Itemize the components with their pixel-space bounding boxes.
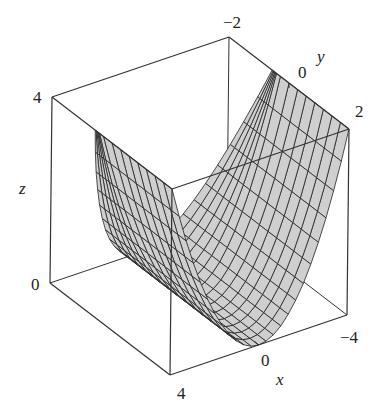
surface-mesh [95, 70, 349, 346]
z-tick-4: 4 [33, 89, 42, 106]
x-axis-label: x [276, 371, 284, 388]
y-axis-label: y [317, 48, 325, 65]
y-tick-0: 0 [298, 64, 307, 81]
x-tick-neg4: −4 [340, 329, 358, 346]
y-tick-neg2: −2 [223, 14, 241, 31]
z-tick-0: 0 [31, 276, 40, 293]
x-tick-4: 4 [177, 385, 186, 402]
x-tick-0: 0 [261, 352, 270, 369]
z-axis-label: z [19, 180, 26, 197]
y-tick-2: 2 [355, 103, 364, 120]
